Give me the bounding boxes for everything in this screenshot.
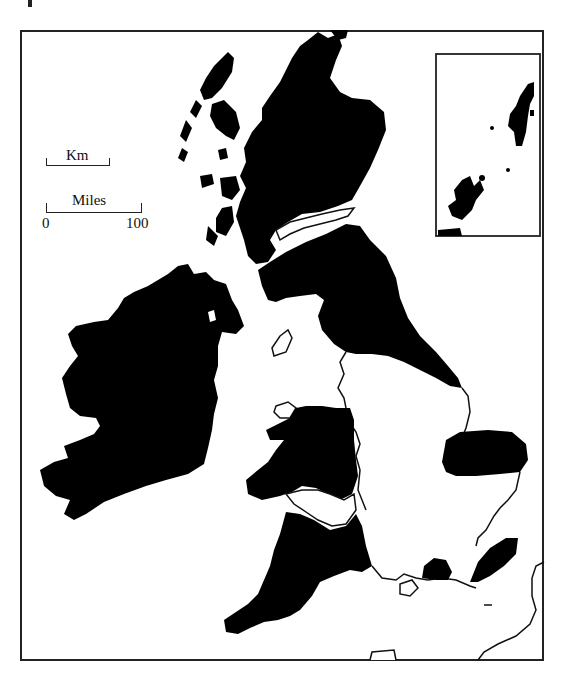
- scotland-region: [236, 32, 386, 264]
- british-isles-map: [0, 0, 572, 690]
- hebrides-island-3: [180, 120, 192, 142]
- southern-uplands-pennines-region: [258, 224, 462, 388]
- inner-isle-1: [218, 148, 228, 160]
- isle-of-man: [272, 330, 292, 356]
- outer-hebrides: [200, 52, 234, 100]
- skye: [210, 100, 240, 140]
- mull: [220, 176, 240, 200]
- isle-of-wight: [400, 580, 418, 596]
- east-anglia-region: [442, 430, 528, 476]
- orkney-islet: [479, 175, 485, 181]
- kent-patch: [470, 538, 518, 582]
- hebrides-island-2: [190, 100, 202, 118]
- hebrides-island-4: [178, 148, 188, 162]
- jura: [216, 206, 234, 236]
- channel-island: [370, 650, 396, 660]
- scale-miles-bar: [46, 203, 142, 213]
- ireland-region: [40, 264, 244, 520]
- scale-tick-100: 100: [126, 216, 149, 231]
- scale-tick-0: 0: [42, 216, 50, 231]
- wales-region: [246, 406, 358, 500]
- essex-coast-line: [476, 472, 520, 546]
- south-downs-patch: [422, 558, 452, 580]
- scale-km-bar: [46, 158, 110, 166]
- fair-isle: [490, 126, 494, 130]
- south-west-england-region: [224, 512, 372, 634]
- shetland-islet: [530, 110, 534, 116]
- inset-dot-2: [506, 168, 510, 172]
- inner-isle-2: [200, 174, 214, 188]
